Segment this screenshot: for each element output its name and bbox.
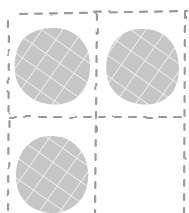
crosshatched-circle-top-left [15,28,90,105]
cell-bottom-left [16,136,88,213]
grid-diagram [0,0,189,213]
cell-top-left [15,28,90,105]
diagram-canvas [0,0,189,213]
grid-line-top [20,11,187,14]
crosshatched-circle-bottom-left [16,136,88,213]
grid-line-right [184,12,185,213]
cell-top-right [106,29,179,105]
grid-line-middle-vertical [95,14,97,213]
crosshatched-circle-top-right [106,29,179,105]
